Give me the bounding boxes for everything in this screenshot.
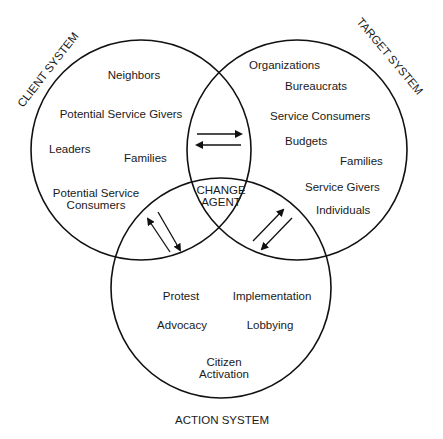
target-item-budgets: Budgets — [285, 135, 327, 147]
diagram-canvas: CLIENT SYSTEM TARGET SYSTEM ACTION SYSTE… — [0, 0, 443, 439]
target-item-bureaucrats: Bureaucrats — [285, 80, 347, 92]
target-system-title: TARGET SYSTEM — [354, 16, 425, 97]
target-item-organizations: Organizations — [249, 59, 320, 71]
target-item-families: Families — [340, 155, 383, 167]
action-item-lobbying: Lobbying — [247, 319, 294, 331]
action-item-protest: Protest — [163, 290, 200, 302]
client-item-families: Families — [124, 152, 167, 164]
action-item-advocacy: Advocacy — [157, 319, 207, 331]
arrow-up-right-icon — [253, 210, 283, 241]
client-item-potential-service-consumers-line1: Potential Service — [53, 187, 139, 199]
target-item-individuals: Individuals — [316, 204, 371, 216]
arrow-up-left-icon — [148, 219, 170, 252]
client-item-potential-service-givers: Potential Service Givers — [60, 108, 183, 120]
target-item-service-consumers: Service Consumers — [270, 110, 371, 122]
client-item-neighbors: Neighbors — [108, 69, 161, 81]
arrow-down-right-icon — [158, 212, 180, 250]
action-system-title: ACTION SYSTEM — [175, 414, 269, 426]
change-agent-line1: CHANGE — [196, 184, 246, 196]
change-agent-line2: AGENT — [201, 196, 241, 208]
venn-diagram: CLIENT SYSTEM TARGET SYSTEM ACTION SYSTE… — [0, 0, 443, 439]
client-item-potential-service-consumers-line2: Consumers — [67, 199, 126, 211]
action-item-implementation: Implementation — [233, 290, 312, 302]
client-system-title: CLIENT SYSTEM — [15, 30, 81, 109]
target-item-service-givers: Service Givers — [305, 181, 380, 193]
client-item-leaders: Leaders — [49, 143, 91, 155]
action-item-citizen-activation-line2: Activation — [199, 368, 249, 380]
arrow-down-left-icon — [262, 218, 292, 249]
action-item-citizen-activation-line1: Citizen — [206, 356, 241, 368]
